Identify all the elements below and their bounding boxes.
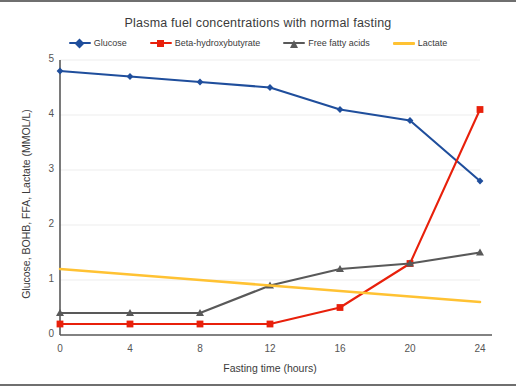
y-tick-label: 5 <box>28 53 54 64</box>
data-point-marker <box>267 84 274 91</box>
x-tick-label: 24 <box>460 343 500 354</box>
data-point-marker <box>127 321 134 328</box>
series-line-beta-hydroxybutyrate <box>60 110 480 325</box>
data-point-marker <box>197 321 204 328</box>
y-tick-label: 1 <box>28 273 54 284</box>
x-axis-title: Fasting time (hours) <box>60 362 480 374</box>
data-point-marker <box>127 73 134 80</box>
y-tick-label: 4 <box>28 108 54 119</box>
x-tick-label: 4 <box>110 343 150 354</box>
plot-area: Glucose, BOHB, FFA, Lactate (MMOL/L) Fas… <box>0 2 516 386</box>
x-tick-label: 20 <box>390 343 430 354</box>
y-tick-label: 0 <box>28 328 54 339</box>
plot-canvas <box>0 2 516 386</box>
data-point-marker <box>57 68 64 75</box>
y-tick-label: 2 <box>28 218 54 229</box>
data-point-marker <box>337 304 344 311</box>
series-line-lactate <box>60 269 480 302</box>
x-tick-label: 0 <box>40 343 80 354</box>
data-point-marker <box>57 321 64 328</box>
y-tick-label: 3 <box>28 163 54 174</box>
data-point-marker <box>267 321 274 328</box>
data-point-marker <box>477 106 484 113</box>
x-tick-label: 12 <box>250 343 290 354</box>
data-point-marker <box>197 79 204 86</box>
x-tick-label: 8 <box>180 343 220 354</box>
chart-figure: Plasma fuel concentrations with normal f… <box>0 0 516 386</box>
data-point-marker <box>337 106 344 113</box>
x-tick-label: 16 <box>320 343 360 354</box>
